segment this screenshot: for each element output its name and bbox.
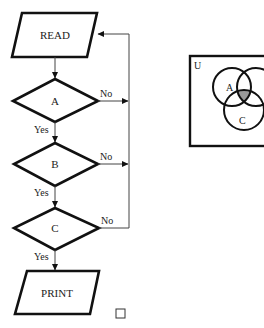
- decision-b-no-label: No: [100, 151, 112, 162]
- decision-c-label: C: [51, 222, 58, 234]
- end-marker-square: [116, 309, 125, 318]
- decision-a-yes-label: Yes: [34, 124, 49, 135]
- decision-c-no-label: No: [101, 215, 113, 226]
- set-a-label: A: [226, 82, 234, 93]
- decision-b-label: B: [51, 158, 58, 170]
- venn-diagram: U A C: [190, 56, 264, 146]
- universe-label: U: [194, 60, 202, 71]
- loop-back-to-read: [98, 34, 129, 228]
- print-label: PRINT: [41, 287, 73, 299]
- diagram-canvas: READ A No Yes B No Yes C No Yes: [0, 0, 264, 328]
- set-c-label: C: [239, 115, 246, 126]
- read-box: READ: [12, 13, 97, 57]
- decision-b-yes-label: Yes: [34, 187, 49, 198]
- decision-a: A: [13, 79, 98, 122]
- decision-c: C: [14, 208, 99, 250]
- decision-b: B: [14, 143, 98, 186]
- print-box: PRINT: [15, 271, 99, 314]
- decision-a-label: A: [51, 95, 59, 107]
- read-label: READ: [40, 29, 70, 41]
- decision-c-yes-label: Yes: [34, 251, 49, 262]
- flowchart: READ A No Yes B No Yes C No Yes: [12, 13, 129, 318]
- decision-a-no-label: No: [100, 88, 112, 99]
